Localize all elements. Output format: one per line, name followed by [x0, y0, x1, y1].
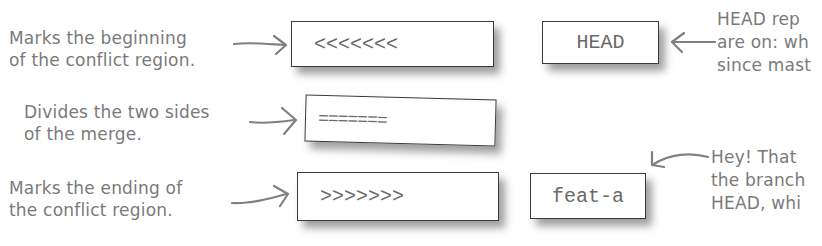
- annotation-line: Marks the beginning: [9, 27, 195, 49]
- arrow-head-icon: [672, 33, 715, 52]
- ref-text: feat-a: [552, 185, 624, 208]
- annotation-line: Hey! That: [711, 146, 805, 169]
- conflict-end-marker: >>>>>>>: [297, 172, 499, 221]
- annotation-line: the conflict region.: [9, 199, 182, 221]
- head-ref-box: HEAD: [542, 21, 659, 64]
- annotation-branch: Hey! That the branch HEAD, whi: [711, 146, 805, 215]
- annotation-line: HEAD, whi: [711, 192, 805, 215]
- annotation-conflict-start: Marks the beginning of the conflict regi…: [9, 27, 195, 71]
- annotation-divider: Divides the two sides of the merge.: [24, 101, 210, 145]
- annotation-head: HEAD rep are on: wh since mast: [717, 8, 811, 77]
- annotation-line: of the conflict region.: [9, 49, 195, 71]
- divider-marker: =======: [304, 95, 496, 147]
- arrow-end-icon: [232, 186, 288, 206]
- ref-text: HEAD: [576, 31, 624, 54]
- annotation-line: Marks the ending of: [9, 177, 182, 199]
- annotation-conflict-end: Marks the ending of the conflict region.: [9, 177, 182, 221]
- annotation-line: since mast: [717, 54, 811, 77]
- marker-text: >>>>>>>: [298, 185, 404, 208]
- marker-text: <<<<<<<: [292, 33, 398, 56]
- marker-text: =======: [306, 108, 387, 130]
- branch-ref-box: feat-a: [530, 173, 646, 219]
- arrow-divide-icon: [250, 108, 296, 134]
- annotation-line: Divides the two sides: [24, 101, 210, 123]
- annotation-line: are on: wh: [717, 31, 811, 54]
- annotation-line: HEAD rep: [717, 8, 811, 31]
- arrow-feat-icon: [652, 152, 708, 167]
- arrow-begin-icon: [234, 36, 286, 54]
- annotation-line: of the merge.: [24, 123, 210, 145]
- conflict-start-marker: <<<<<<<: [291, 21, 494, 67]
- annotation-line: the branch: [711, 169, 805, 192]
